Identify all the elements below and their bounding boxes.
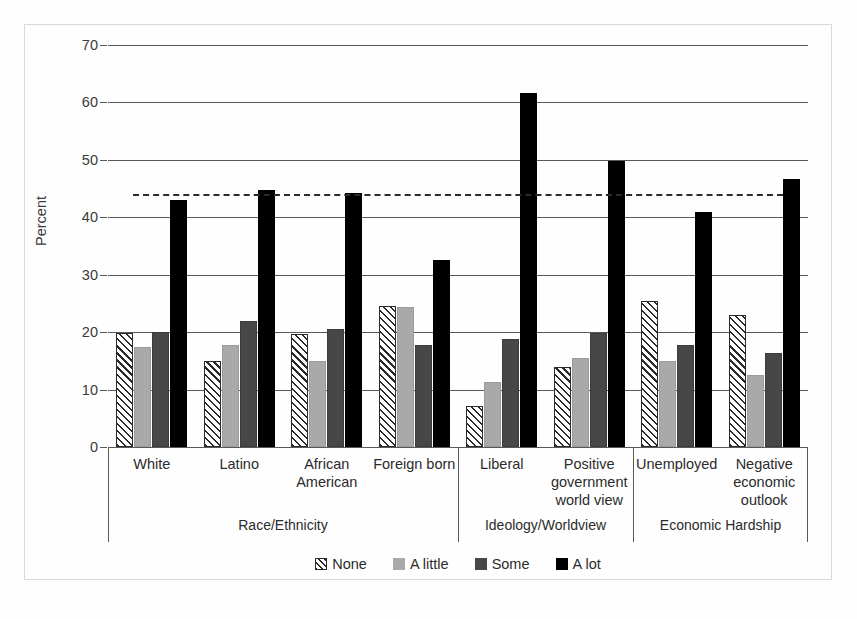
legend-swatch-none-icon <box>315 558 327 570</box>
legend-item[interactable]: A lot <box>556 556 601 572</box>
category-label-line: Negative <box>721 455 809 473</box>
legend-item[interactable]: None <box>315 556 367 572</box>
category-label-line: American <box>283 473 371 491</box>
legend-swatch-little-icon <box>393 558 405 570</box>
bar <box>641 301 658 447</box>
bar <box>572 358 589 447</box>
bar <box>258 190 275 447</box>
bar <box>170 200 187 447</box>
bar-group <box>108 45 196 447</box>
category-label: Negativeeconomicoutlook <box>721 447 809 499</box>
bar <box>466 406 483 447</box>
bar <box>397 307 414 447</box>
bar <box>134 347 151 448</box>
bar <box>309 361 326 447</box>
bar <box>695 212 712 447</box>
category-label: Latino <box>196 447 284 499</box>
y-tick-mark <box>100 332 107 333</box>
category-label-line: government <box>546 473 634 491</box>
bar <box>520 93 537 447</box>
bar <box>204 361 221 447</box>
category-label: Liberal <box>458 447 546 499</box>
category-label-line: outlook <box>721 491 809 509</box>
y-tick-label: 60 <box>82 94 98 110</box>
y-tick-label: 20 <box>82 324 98 340</box>
bar <box>677 345 694 447</box>
category-label-line: Positive <box>546 455 634 473</box>
bar <box>379 306 396 447</box>
bar <box>116 333 133 447</box>
legend-label: Some <box>492 556 530 572</box>
group-separator <box>807 447 808 542</box>
legend-label: A lot <box>573 556 601 572</box>
category-label-line: Unemployed <box>633 455 721 473</box>
category-label: White <box>108 447 196 499</box>
bar-group <box>283 45 371 447</box>
y-tick-label: 50 <box>82 152 98 168</box>
y-tick-mark <box>100 217 107 218</box>
bar <box>484 382 501 447</box>
y-tick-mark <box>100 447 107 448</box>
category-label: Positivegovernmentworld view <box>546 447 634 499</box>
category-label-line: African <box>283 455 371 473</box>
bar <box>729 315 746 447</box>
bar <box>590 333 607 447</box>
bar-group <box>371 45 459 447</box>
bar <box>291 334 308 447</box>
category-label: Foreign born <box>371 447 459 499</box>
bar-group <box>196 45 284 447</box>
group-separator <box>458 447 459 542</box>
plot-area: 010203040506070 <box>108 45 808 447</box>
bar <box>222 345 239 447</box>
y-tick-label: 0 <box>90 439 98 455</box>
category-label-line: Latino <box>196 455 284 473</box>
bar <box>345 193 362 447</box>
category-label-line: economic <box>721 473 809 491</box>
legend-item[interactable]: Some <box>475 556 530 572</box>
group-separator <box>108 447 109 542</box>
bar <box>433 260 450 447</box>
y-tick-mark <box>100 102 107 103</box>
bar <box>152 332 169 447</box>
category-label-line: White <box>108 455 196 473</box>
bar <box>783 179 800 447</box>
bar <box>765 353 782 447</box>
category-axis-table: WhiteLatinoAfricanAmericanForeign bornLi… <box>108 447 808 542</box>
category-label-line: world view <box>546 491 634 509</box>
bar-group <box>633 45 721 447</box>
bar <box>554 367 571 447</box>
bar <box>659 361 676 447</box>
bar-group <box>458 45 546 447</box>
y-tick-mark <box>100 275 107 276</box>
bar <box>608 161 625 447</box>
y-axis-label: Percent <box>33 196 49 246</box>
bar <box>240 321 257 447</box>
y-tick-label: 30 <box>82 267 98 283</box>
legend-item[interactable]: A little <box>393 556 449 572</box>
legend-swatch-some-icon <box>475 558 487 570</box>
bar <box>747 375 764 447</box>
category-label: Unemployed <box>633 447 721 499</box>
group-separator <box>633 447 634 542</box>
y-tick-label: 70 <box>82 37 98 53</box>
y-tick-mark <box>100 390 107 391</box>
group-label: Economic Hardship <box>633 517 808 541</box>
chart-legend: NoneA littleSomeA lot <box>108 556 808 572</box>
y-tick-mark <box>100 160 107 161</box>
bar <box>327 329 344 447</box>
group-label: Ideology/Worldview <box>458 517 633 541</box>
category-label: AfricanAmerican <box>283 447 371 499</box>
category-label-line: Liberal <box>458 455 546 473</box>
bar <box>502 339 519 447</box>
group-label: Race/Ethnicity <box>108 517 458 541</box>
legend-label: None <box>332 556 367 572</box>
chart-figure: Percent 010203040506070 WhiteLatinoAfric… <box>0 0 857 619</box>
y-tick-mark <box>100 45 107 46</box>
bar-group <box>721 45 809 447</box>
y-tick-label: 10 <box>82 382 98 398</box>
legend-label: A little <box>410 556 449 572</box>
bar-group <box>546 45 634 447</box>
reference-line <box>133 194 783 196</box>
legend-swatch-alot-icon <box>556 558 568 570</box>
category-label-line: Foreign born <box>371 455 459 473</box>
